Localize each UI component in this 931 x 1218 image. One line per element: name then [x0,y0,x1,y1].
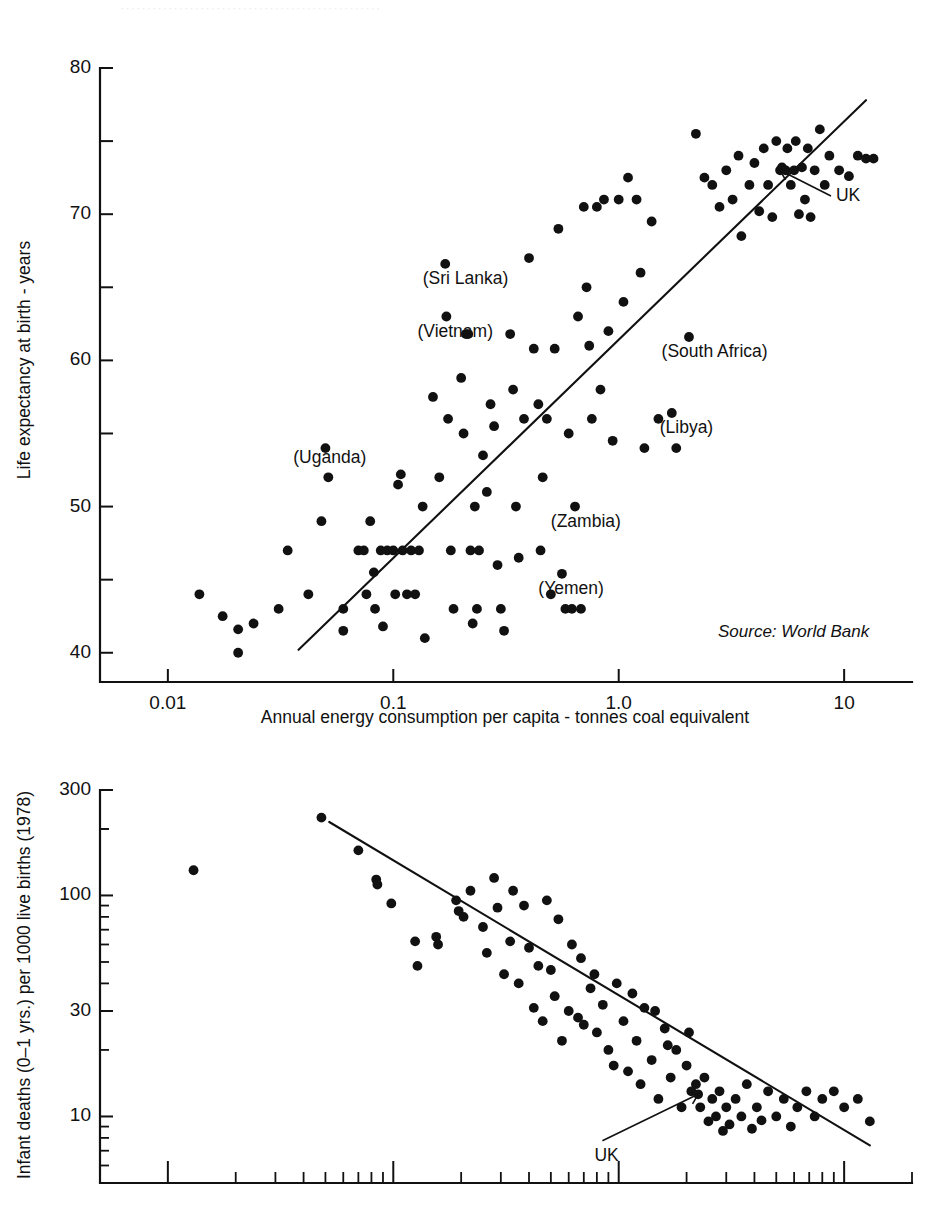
data-point [747,1124,757,1134]
data-point [434,472,444,482]
data-point [779,1094,789,1104]
data-point [839,1102,849,1112]
life-expectancy-data-points [194,124,878,657]
data-point [338,626,348,636]
annotation-leader [602,1094,698,1141]
data-point [567,940,577,950]
x-tick-label-top: 10 [834,692,855,713]
data-point [456,373,466,383]
data-point [666,1073,676,1083]
data-point [582,282,592,292]
data-point [557,569,567,579]
data-point [647,1055,657,1065]
fit-line-bottom [329,822,870,1145]
data-point [428,392,438,402]
data-point [654,1094,664,1104]
life-expectancy-axes [100,68,912,682]
data-point [542,895,552,905]
data-point [519,414,529,424]
x-tick-label-top: 0.01 [149,692,186,713]
data-point [249,619,259,629]
data-point [707,180,717,190]
page-root: ········································… [0,0,931,1218]
data-point [829,1086,839,1096]
data-point [636,1079,646,1089]
data-point [619,1016,629,1026]
data-point [459,429,469,439]
data-point [478,451,488,461]
data-point [767,212,777,222]
y-tick-label-bottom: 10 [70,1104,91,1125]
data-point [763,1086,773,1096]
data-point [489,873,499,883]
data-point [482,948,492,958]
data-point [715,202,725,212]
data-point [684,332,694,342]
annotation-label: UK [836,185,861,205]
data-point [393,480,403,490]
annotation-label: (South Africa) [662,341,768,361]
fit-line-top [299,100,866,650]
data-point [660,1024,670,1034]
data-point [834,165,844,175]
data-point [700,1073,710,1083]
data-point [695,1102,705,1112]
data-point [505,936,515,946]
data-point [493,560,503,570]
y-tick-label-top: 70 [70,202,91,223]
data-point [472,604,482,614]
data-point [598,1000,608,1010]
y-tick-label-top: 60 [70,348,91,369]
data-point [511,502,521,512]
data-point [745,180,755,190]
data-point [592,1028,602,1038]
data-point [647,217,657,227]
data-point [623,173,633,183]
data-point [586,983,596,993]
annotation-label: (Yemen) [538,578,604,598]
data-point [233,648,243,658]
data-point [810,165,820,175]
data-point [736,1112,746,1122]
data-point [691,129,701,139]
data-point [731,1094,741,1104]
data-point [553,224,563,234]
data-point [508,385,518,395]
data-point [604,326,614,336]
data-point [466,886,476,896]
data-point [604,1045,614,1055]
data-point [398,546,408,556]
y-tick-label-bottom: 30 [70,999,91,1020]
annotation-label: (Libya) [660,417,714,437]
y-axis-title-top: Life expectancy at birth - years [14,241,34,480]
data-point [519,901,529,911]
data-point [446,546,456,556]
data-point [589,969,599,979]
data-point [579,202,589,212]
data-point [303,589,313,599]
data-point [440,259,450,269]
data-point [599,195,609,205]
data-point [524,253,534,263]
data-point [824,151,834,161]
data-point [478,922,488,932]
data-point [533,961,543,971]
data-point [803,144,813,154]
data-point [757,1115,767,1125]
data-point [499,969,509,979]
data-point [466,546,476,556]
data-point [533,399,543,409]
data-point [370,604,380,614]
data-point [592,202,602,212]
data-point [323,472,333,482]
data-point [553,914,563,924]
data-point [449,604,459,614]
data-point [853,1094,863,1104]
data-point [378,622,388,632]
data-point [274,604,284,614]
data-point [800,195,810,205]
data-point [792,1102,802,1112]
annotation-label: (Vietnam) [417,321,493,341]
source-note: Source: World Bank [718,622,871,641]
data-point [682,1061,692,1071]
